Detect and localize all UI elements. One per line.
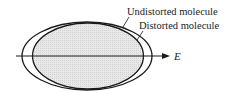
- field-label: E: [173, 50, 181, 62]
- undistorted-leader-line: [123, 17, 129, 27]
- distorted-molecule-label: Distorted molecule: [139, 20, 220, 31]
- undistorted-molecule-label: Undistorted molecule: [127, 6, 218, 17]
- polarization-diagram: E Undistorted molecule Distorted molecul…: [0, 0, 234, 93]
- field-arrowhead-icon: [162, 53, 170, 59]
